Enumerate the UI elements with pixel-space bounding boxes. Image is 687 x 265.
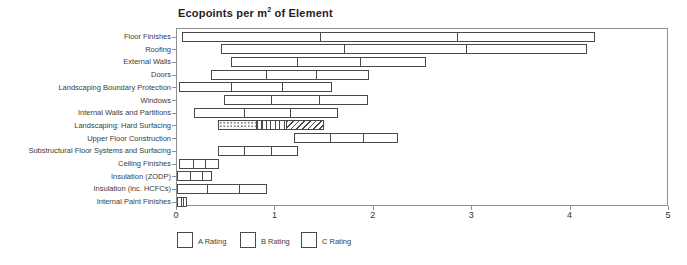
range-bar: [177, 184, 267, 194]
rating-divider: [330, 134, 331, 142]
category-label: Landscaping Boundary Protection: [0, 83, 171, 92]
rating-divider: [271, 96, 272, 104]
y-tick: [172, 87, 176, 88]
range-bar: [182, 32, 596, 42]
category-label: External Walls: [0, 57, 171, 66]
category-label: Doors: [0, 70, 171, 79]
category-label: Insulation (inc. HCFCs): [0, 184, 171, 193]
ecopoints-chart: Ecopoints per m2 of Element Floor Finish…: [0, 0, 687, 265]
x-tick-label: 5: [658, 210, 678, 220]
rating-divider: [457, 33, 458, 41]
rating-divider: [181, 198, 182, 206]
plot-area: [176, 28, 668, 206]
rating-divider: [190, 172, 191, 180]
y-tick: [172, 164, 176, 165]
category-label: Substructural Floor Systems and Surfacin…: [0, 146, 171, 155]
rating-divider: [202, 172, 203, 180]
chart-title: Ecopoints per m2 of Element: [178, 6, 333, 19]
range-bar: [218, 120, 324, 130]
category-label: Internal Walls and Partitions: [0, 108, 171, 117]
category-label: Insulation (ZODP): [0, 172, 171, 181]
y-tick: [172, 62, 176, 63]
rating-divider: [316, 71, 317, 79]
rating-divider: [290, 109, 291, 117]
rating-divider: [205, 160, 206, 168]
chart-title-prefix: Ecopoints per m: [178, 7, 267, 19]
rating-divider: [363, 134, 364, 142]
y-tick: [172, 37, 176, 38]
rating-divider: [360, 58, 361, 66]
range-bar: [221, 44, 587, 54]
range-bar: [179, 159, 219, 169]
range-bar: [231, 57, 426, 67]
x-tick-label: 1: [264, 210, 284, 220]
legend-label: A Rating: [198, 237, 226, 246]
range-bar: [177, 197, 187, 207]
rating-divider: [266, 71, 267, 79]
rating-divider: [244, 109, 245, 117]
rating-divider: [207, 185, 208, 193]
range-bar: [294, 133, 399, 143]
legend: A RatingB RatingC Rating: [0, 232, 687, 254]
range-bar: [224, 95, 368, 105]
vertical-stripes-swatch-icon: [240, 232, 256, 248]
category-label: Internal Paint Finishes: [0, 197, 171, 206]
chart-title-suffix: of Element: [271, 7, 333, 19]
y-tick: [172, 189, 176, 190]
rating-divider: [297, 58, 298, 66]
x-tick-label: 4: [560, 210, 580, 220]
category-label: Upper Floor Construction: [0, 134, 171, 143]
category-label: Ceiling Finishes: [0, 159, 171, 168]
range-bar: [194, 108, 338, 118]
legend-label: B Rating: [261, 237, 290, 246]
x-tick-label: 2: [363, 210, 383, 220]
y-tick: [172, 151, 176, 152]
category-label: Landscaping: Hard Surfacing: [0, 121, 171, 130]
range-bar: [211, 70, 369, 80]
x-tick-label: 3: [461, 210, 481, 220]
rating-divider: [271, 147, 272, 155]
y-tick: [172, 75, 176, 76]
dots-swatch-icon: [177, 232, 193, 248]
x-tick-label: 0: [166, 210, 186, 220]
range-bar: [179, 82, 332, 92]
category-label: Roofing: [0, 45, 171, 54]
y-tick: [172, 49, 176, 50]
category-label: Floor Finishes: [0, 32, 171, 41]
category-label: Windows: [0, 96, 171, 105]
range-bar: [218, 146, 297, 156]
y-tick: [172, 113, 176, 114]
rating-segment-a: [219, 121, 256, 129]
y-tick: [172, 202, 176, 203]
rating-divider: [193, 160, 194, 168]
diagonal-stripes-swatch-icon: [301, 232, 317, 248]
y-tick: [172, 176, 176, 177]
y-tick: [172, 138, 176, 139]
rating-divider: [282, 83, 283, 91]
legend-label: C Rating: [322, 237, 351, 246]
rating-divider: [466, 45, 467, 53]
rating-divider: [183, 198, 184, 206]
rating-segment-c: [286, 121, 323, 129]
rating-divider: [344, 45, 345, 53]
rating-divider: [319, 96, 320, 104]
rating-divider: [239, 185, 240, 193]
rating-divider: [320, 33, 321, 41]
rating-divider: [244, 147, 245, 155]
range-bar: [177, 171, 212, 181]
y-tick: [172, 100, 176, 101]
y-tick: [172, 125, 176, 126]
rating-segment-b: [256, 121, 287, 129]
rating-divider: [231, 83, 232, 91]
